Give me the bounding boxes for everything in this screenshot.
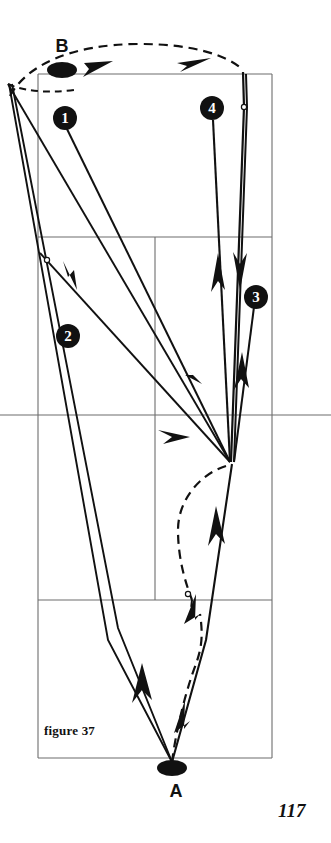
shot-badge-2-label: 2 [64, 328, 72, 344]
shot-badge-4-label: 4 [208, 100, 216, 116]
badminton-court-diagram: B A 1 2 3 4 [0, 0, 331, 843]
shuttle-contact-point-near-icon [185, 591, 190, 596]
shuttle-trajectories [8, 72, 254, 762]
shuttle-contact-point-far-icon [241, 104, 246, 109]
player-label-b: B [56, 36, 69, 56]
shuttle-arrowheads [63, 252, 249, 703]
player-movement-paths [8, 44, 243, 762]
figure-caption: figure 37 [44, 723, 95, 739]
shot-badge-1[interactable]: 1 [53, 106, 77, 130]
shot-badge-4[interactable]: 4 [200, 96, 224, 120]
trajectory-left-to-convergence [8, 84, 230, 462]
arrowhead-vertical-down-right [233, 252, 247, 290]
trajectory-shot-1 [66, 127, 230, 462]
page-number: 117 [278, 800, 305, 822]
trajectory-shot-2 [40, 253, 230, 462]
trajectory-left-long-2 [12, 84, 172, 762]
arrowhead-movement-leftward [177, 58, 211, 72]
trajectory-left-long-1 [9, 84, 172, 762]
movement-path-b-top-arc [10, 44, 243, 96]
shot-badge-3-label: 3 [252, 289, 260, 305]
player-marker-a [157, 760, 187, 776]
arrowhead-movement-rightward [83, 61, 113, 77]
movement-path-a-lower [172, 614, 202, 762]
figure-container: B A 1 2 3 4 figure 37 117 [0, 0, 331, 843]
trajectory-shot-4 [213, 120, 230, 462]
player-marker-b [47, 62, 77, 78]
movement-path-b-left-loop [8, 84, 74, 92]
shot-badge-3[interactable]: 3 [244, 285, 268, 309]
court-lines [0, 74, 331, 758]
arrowhead-vertical-up-left [211, 253, 225, 292]
arrowhead-into-convergence-left [158, 430, 190, 444]
shot-badge-1-label: 1 [61, 110, 69, 126]
shot-badge-2[interactable]: 2 [56, 324, 80, 348]
shuttle-contact-point-left-icon [44, 257, 49, 262]
player-label-a: A [170, 781, 183, 801]
